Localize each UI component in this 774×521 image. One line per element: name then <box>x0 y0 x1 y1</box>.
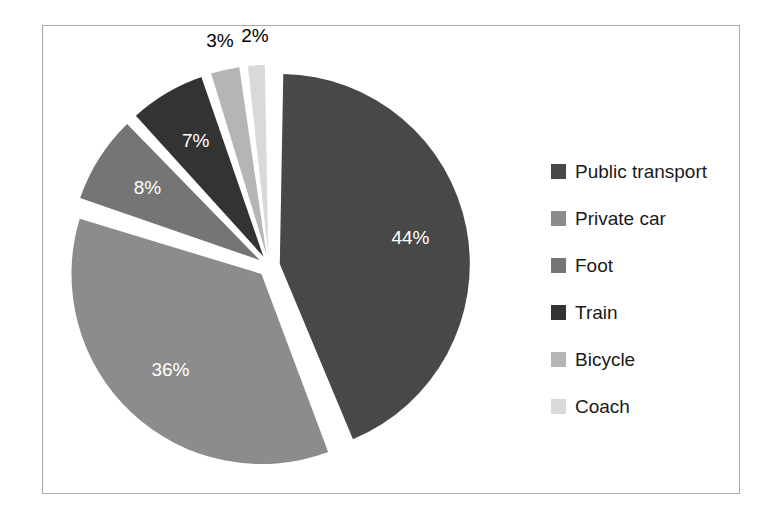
legend-swatch-icon <box>551 258 566 273</box>
pie-data-label: 44% <box>391 227 429 248</box>
legend-item-label: Bicycle <box>575 350 635 369</box>
chart-figure: 44%36%8%7%3%2% Public transportPrivate c… <box>0 0 774 521</box>
pie-chart-svg: 44%36%8%7%3%2% <box>43 26 543 495</box>
pie-chart-area: 44%36%8%7%3%2% <box>43 26 543 495</box>
pie-data-label: 7% <box>182 130 210 151</box>
legend-item[interactable]: Private car <box>551 195 737 242</box>
legend-swatch-icon <box>551 164 566 179</box>
legend-swatch-icon <box>551 399 566 414</box>
pie-data-label: 36% <box>151 359 189 380</box>
legend-item-label: Train <box>575 303 618 322</box>
pie-slice[interactable] <box>280 74 470 439</box>
legend-item[interactable]: Bicycle <box>551 336 737 383</box>
legend-item[interactable]: Public transport <box>551 148 737 195</box>
legend-item[interactable]: Train <box>551 289 737 336</box>
pie-data-label: 2% <box>241 26 269 46</box>
legend-item-label: Coach <box>575 397 630 416</box>
pie-slices-group <box>71 65 469 464</box>
legend-item-label: Foot <box>575 256 613 275</box>
pie-data-label: 8% <box>134 177 162 198</box>
legend-swatch-icon <box>551 352 566 367</box>
pie-data-label: 3% <box>206 30 234 51</box>
legend-item[interactable]: Coach <box>551 383 737 430</box>
chart-frame: 44%36%8%7%3%2% Public transportPrivate c… <box>42 25 740 494</box>
legend-item-label: Private car <box>575 209 666 228</box>
legend-swatch-icon <box>551 211 566 226</box>
legend-item-label: Public transport <box>575 162 707 181</box>
chart-legend: Public transportPrivate carFootTrainBicy… <box>551 148 737 430</box>
legend-item[interactable]: Foot <box>551 242 737 289</box>
legend-swatch-icon <box>551 305 566 320</box>
